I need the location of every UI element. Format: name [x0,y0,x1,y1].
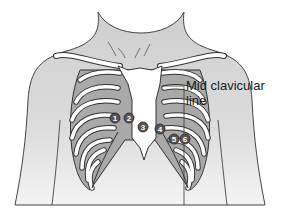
mid-clavicular-label: Mid clavicular line [186,78,265,108]
svg-text:2: 2 [127,114,132,123]
svg-text:1: 1 [113,114,118,123]
svg-text:5: 5 [172,135,177,144]
svg-text:4: 4 [158,125,163,134]
electrode-v4: 4 [155,124,165,134]
svg-text:3: 3 [141,123,146,132]
electrode-v6: 6 [180,134,190,144]
electrode-v3: 3 [138,122,148,132]
label-line-1: Mid clavicular [186,78,265,93]
electrode-v1: 1 [110,113,120,123]
electrode-v2: 2 [124,113,134,123]
label-line-2: line [186,93,265,108]
chest-diagram: 1 2 3 4 5 6 [0,0,283,223]
electrode-v5: 5 [169,134,179,144]
svg-text:6: 6 [183,135,188,144]
